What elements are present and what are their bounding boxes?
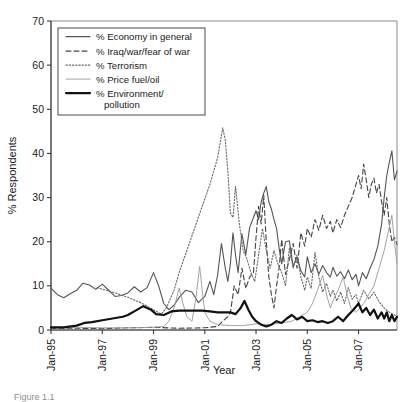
y-tick-label: 10	[32, 279, 44, 291]
y-tick-label: 20	[32, 235, 44, 247]
x-tick-label: Jan-99	[147, 339, 159, 371]
series-line-3	[51, 215, 397, 328]
series-line-1	[51, 164, 397, 329]
legend-label-2: % Terrorism	[96, 60, 147, 71]
x-axis-title: Year	[213, 364, 236, 376]
legend-label-0: % Economy in general	[96, 31, 192, 42]
x-tick-label: Jan-01	[199, 339, 211, 371]
line-chart: 010203040506070% RespondentsJan-95Jan-97…	[0, 0, 414, 402]
y-tick-label: 50	[32, 103, 44, 115]
legend-label-4-cont: pollution	[104, 99, 140, 110]
series-line-4	[51, 301, 397, 327]
x-tick-label: Jan-05	[301, 339, 313, 371]
y-tick-label: 30	[32, 191, 44, 203]
figure-container: 010203040506070% RespondentsJan-95Jan-97…	[0, 0, 414, 402]
legend-label-3: % Price fuel/oil	[96, 74, 159, 85]
x-tick-label: Jan-97	[96, 339, 108, 371]
x-tick-label: Jan-07	[352, 339, 364, 371]
y-tick-label: 40	[32, 147, 44, 159]
figure-caption: Figure 1.1	[14, 392, 55, 402]
series-line-2	[97, 128, 397, 317]
y-axis-title: % Respondents	[6, 136, 18, 214]
legend-label-4: % Environment/	[96, 88, 164, 99]
y-tick-label: 70	[32, 15, 44, 27]
y-tick-label: 60	[32, 59, 44, 71]
y-tick-label: 0	[38, 324, 44, 336]
x-tick-label: Jan-03	[250, 339, 262, 371]
legend-label-1: % Iraq/war/fear of war	[96, 46, 191, 57]
x-tick-label: Jan-95	[45, 339, 57, 371]
